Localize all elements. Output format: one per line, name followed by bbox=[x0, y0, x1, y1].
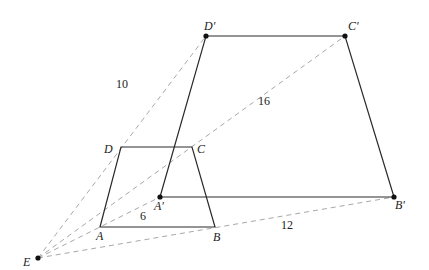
label-a: A bbox=[95, 229, 104, 243]
vertex-labels: E A B C D A′ B′ C′ D′ bbox=[22, 19, 405, 269]
label-d-prime: D′ bbox=[203, 19, 216, 33]
diagram-canvas: E A B C D A′ B′ C′ D′ 10 16 6 12 bbox=[0, 0, 429, 270]
dilation-rays bbox=[38, 36, 394, 258]
label-e: E bbox=[22, 255, 31, 269]
length-label-ec: 16 bbox=[258, 94, 270, 108]
label-a-prime: A′ bbox=[153, 199, 164, 213]
dilation-diagram: E A B C D A′ B′ C′ D′ 10 16 6 12 bbox=[0, 0, 429, 270]
point-d-prime bbox=[203, 33, 208, 38]
trapezoid-a-b-c-d-prime bbox=[160, 36, 394, 197]
trapezoid-abcd bbox=[100, 147, 215, 227]
point-c-prime bbox=[342, 33, 347, 38]
label-c-prime: C′ bbox=[348, 19, 359, 33]
point-e bbox=[35, 255, 40, 260]
vertex-points bbox=[35, 33, 396, 260]
ray-e-b-prime bbox=[38, 197, 394, 258]
label-d: D bbox=[103, 142, 113, 156]
label-b-prime: B′ bbox=[395, 198, 405, 212]
label-c: C bbox=[197, 142, 206, 156]
length-label-ea: 6 bbox=[140, 209, 146, 223]
label-b: B bbox=[213, 230, 221, 244]
length-label-eb: 12 bbox=[281, 218, 293, 232]
length-label-ed: 10 bbox=[116, 77, 128, 91]
